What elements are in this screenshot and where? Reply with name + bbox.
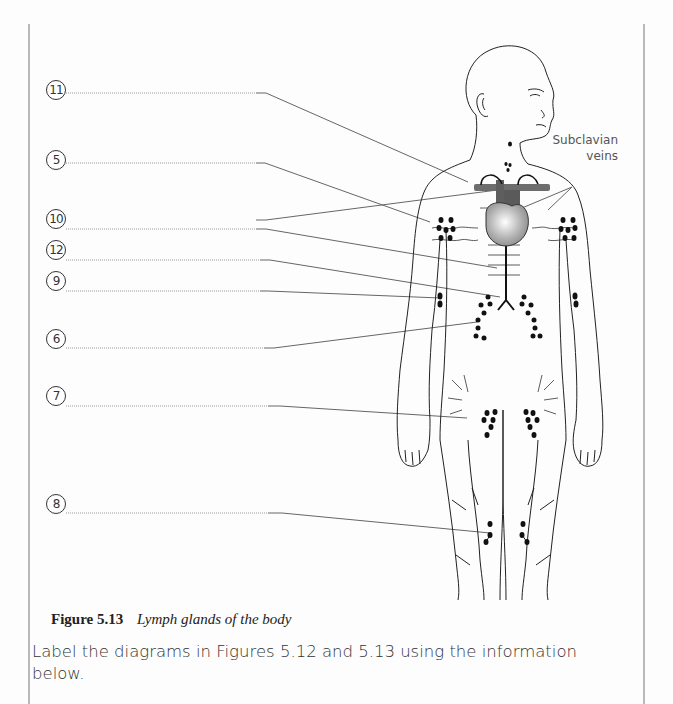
heart-and-subclavian-veins xyxy=(474,175,550,246)
label-marker-11: 11 xyxy=(46,80,66,100)
figure-number: Figure 5.13 xyxy=(51,611,123,627)
lymph-glands-diagram xyxy=(0,0,673,604)
body-outline xyxy=(397,46,603,600)
instruction-text: Label the diagrams in Figures 5.12 and 5… xyxy=(32,641,632,685)
label-marker-8: 8 xyxy=(46,494,66,514)
figure-title: Lymph glands of the body xyxy=(137,611,292,627)
label-marker-10: 10 xyxy=(46,209,66,229)
callout-line-2: veins xyxy=(548,148,618,164)
label-marker-6: 6 xyxy=(46,329,66,349)
label-marker-9: 9 xyxy=(46,271,66,291)
label-leader-lines xyxy=(66,93,572,533)
figure-caption: Figure 5.13 Lymph glands of the body xyxy=(51,611,292,628)
callout-line-1: Subclavian xyxy=(548,132,618,148)
workbook-page: 11 5 10 12 9 6 7 8 Subclavian veins Figu… xyxy=(0,0,673,704)
subclavian-veins-callout: Subclavian veins xyxy=(548,132,618,164)
label-marker-7: 7 xyxy=(46,386,66,406)
label-marker-12: 12 xyxy=(46,240,66,260)
lymph-vessels xyxy=(432,227,574,414)
label-marker-5: 5 xyxy=(46,150,66,170)
